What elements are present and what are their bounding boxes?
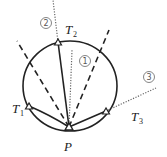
dotted-line-1 [69, 50, 72, 127]
label-t1-sub: 1 [20, 109, 24, 118]
dashed-line-left [17, 41, 69, 127]
label-t3: T [131, 109, 139, 124]
dotted-line-3 [106, 88, 156, 111]
label-t3-sub: 3 [139, 117, 143, 126]
triangle-marker-p [65, 123, 73, 130]
label-t2: T [65, 22, 73, 37]
label-p: P [63, 139, 72, 154]
circled-number-3: 3 [146, 73, 151, 82]
dotted-line-2 [53, 0, 58, 42]
diagram-canvas: P T 1 T 2 T 3 1 2 3 [0, 0, 167, 157]
chord-p-t2 [58, 42, 69, 127]
circled-number-2: 2 [43, 19, 48, 28]
label-t2-sub: 2 [73, 30, 77, 39]
label-t1: T [12, 101, 20, 116]
circled-number-1: 1 [82, 57, 87, 66]
